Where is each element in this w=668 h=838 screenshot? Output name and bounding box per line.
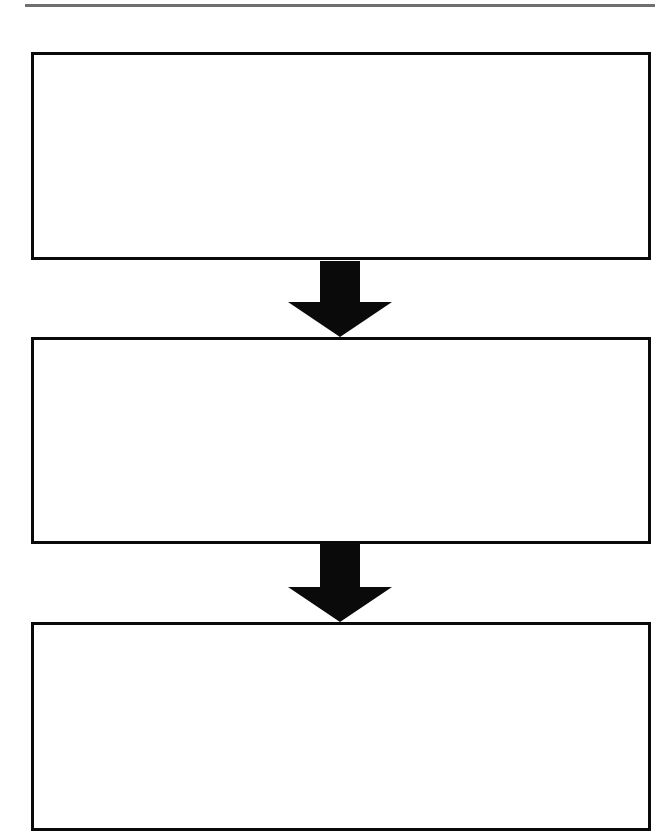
flow-box-3[interactable] <box>31 622 651 831</box>
flow-box-2-text[interactable] <box>34 340 648 360</box>
down-arrow-icon-2 <box>286 544 394 622</box>
header-rule <box>25 4 655 7</box>
flow-box-1[interactable] <box>31 52 651 260</box>
flow-box-2[interactable] <box>31 337 651 544</box>
down-arrow-icon-1 <box>286 261 394 337</box>
flow-box-3-text[interactable] <box>34 625 648 645</box>
flow-box-1-text[interactable] <box>34 55 648 75</box>
